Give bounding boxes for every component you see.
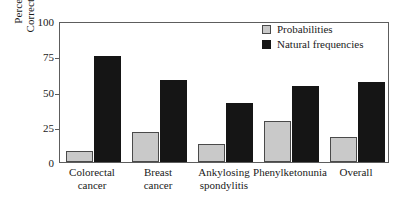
bar [226,103,253,162]
bar-group [192,23,258,162]
bar [292,86,319,162]
bar [66,151,93,162]
legend-item-probabilities: Probabilities [262,24,363,35]
bar-group [60,23,126,162]
bar [264,121,291,162]
y-axis-tick-mark [55,129,60,130]
bar [132,132,159,162]
legend-swatch-natural-frequencies-icon [262,40,271,49]
bar [160,80,187,162]
legend-label-probabilities: Probabilities [277,24,333,35]
legend: Probabilities Natural frequencies [262,24,363,50]
legend-label-natural-frequencies: Natural frequencies [277,39,363,50]
bar [330,137,357,162]
legend-swatch-probabilities-icon [262,25,271,34]
x-axis-category-labels: ColorectalcancerBreastcancerAnkylosingsp… [59,166,389,206]
y-axis-tick-label: 0 [26,158,54,169]
bar-group [126,23,192,162]
y-axis-tick-label: 75 [26,52,54,63]
legend-item-natural-frequencies: Natural frequencies [262,39,363,50]
y-axis-tick-label: 100 [26,17,54,28]
x-axis-category-label-line: spondylitis [183,179,265,192]
bar [198,144,225,162]
y-axis-tick-mark [55,58,60,59]
bar-chart: Percentage of Correct Inference 02550751… [0,0,404,206]
bar [358,82,385,162]
y-axis-tick-labels: 0255075100 [26,0,54,206]
y-axis-tick-label: 25 [26,122,54,133]
y-axis-tick-label: 50 [26,87,54,98]
x-axis-category-label: Overall [315,166,397,179]
y-axis-tick-mark [55,94,60,95]
x-axis-category-label-line: Overall [315,166,397,179]
bar [94,56,121,162]
